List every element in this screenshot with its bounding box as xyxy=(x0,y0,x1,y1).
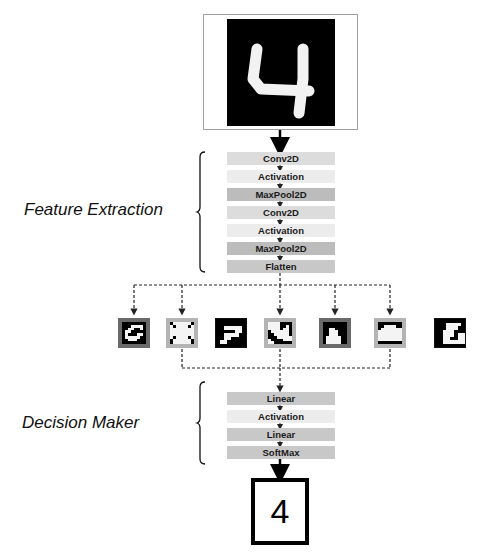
layer-linear: Linear xyxy=(227,392,335,405)
layer-conv2d: Conv2D xyxy=(227,206,335,219)
feature-map-7 xyxy=(434,318,466,348)
digit-four-glyph xyxy=(227,19,335,126)
layer-linear: Linear xyxy=(227,428,335,441)
feature-map-pixels xyxy=(216,319,246,347)
feature-map-1 xyxy=(118,318,150,348)
layer-maxpool2d: MaxPool2D xyxy=(227,188,335,201)
feature-map-pixels xyxy=(435,319,465,347)
layer-maxpool2d: MaxPool2D xyxy=(227,242,335,255)
input-digit-image xyxy=(227,19,335,126)
feature-map-pixels xyxy=(378,322,402,344)
feature-map-3 xyxy=(215,318,247,348)
decision-maker-bracket xyxy=(197,382,205,464)
layer-flatten: Flatten xyxy=(227,260,335,273)
layer-activation: Activation xyxy=(227,410,335,423)
output-prediction: 4 xyxy=(271,492,290,530)
feature-map-pixels xyxy=(268,322,292,344)
feature-map-pixels xyxy=(170,322,194,344)
flatten-to-features-bus xyxy=(134,273,390,312)
layer-activation: Activation xyxy=(227,170,335,183)
feature-map-pixels xyxy=(323,322,347,344)
layer-softmax: SoftMax xyxy=(227,446,335,459)
feature-extraction-bracket xyxy=(197,152,205,272)
feature-map-pixels xyxy=(122,322,146,344)
feature-map-5 xyxy=(319,318,351,348)
output-prediction-box: 4 xyxy=(251,478,309,545)
decision-maker-label: Decision Maker xyxy=(22,413,139,433)
feature-map-6 xyxy=(374,318,406,348)
feature-map-2 xyxy=(166,318,198,348)
feature-map-4 xyxy=(264,318,296,348)
layer-activation: Activation xyxy=(227,224,335,237)
feature-extraction-label: Feature Extraction xyxy=(24,200,163,220)
layer-conv2d: Conv2D xyxy=(227,152,335,165)
features-to-decision-bus xyxy=(182,349,390,389)
